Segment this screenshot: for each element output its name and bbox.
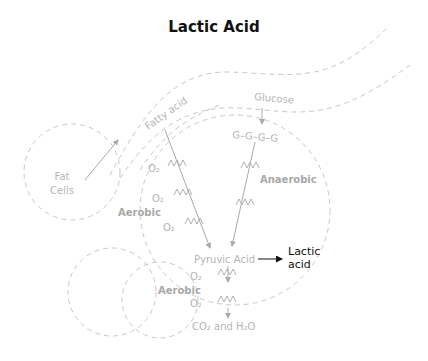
anaerobic-label: Anaerobic [260, 174, 317, 185]
co2-h2o-label: CO₂ and H₂O [192, 321, 256, 332]
o2-label-4: O₂ [190, 271, 202, 282]
glucose-chain-label: G–G–G–G [232, 129, 279, 144]
o2-label-1: O₂ [148, 163, 160, 174]
pyruvic-acid-label: Pyruvic Acid [194, 254, 255, 265]
muscle-cell-circle [140, 115, 330, 305]
glucose-label: Glucose [254, 91, 295, 105]
glycolysis-arrow [232, 142, 255, 246]
o2-label-2: O₂ [152, 193, 164, 204]
fat-release-arrow [85, 140, 118, 180]
vessel-upper-outer [110, 25, 390, 175]
aerobic-label-upper: Aerobic [118, 207, 161, 218]
wave-icon-7 [218, 296, 236, 302]
wave-icon-6 [218, 269, 236, 275]
wave-icon-1 [168, 160, 186, 166]
o2-label-5: O₂ [190, 298, 202, 309]
vessel-lower [140, 105, 220, 170]
wave-icon-5 [236, 199, 254, 205]
lactic-acid-label-1: Lactic [288, 245, 320, 258]
lower-cell-circle-1 [68, 248, 156, 336]
fat-cell-circle [24, 124, 120, 220]
lactic-acid-diagram: Lactic Acid Fat Cells Fatty acid Glucose… [0, 0, 428, 361]
lactic-acid-label-2: acid [288, 258, 311, 271]
o2-label-3: O₂ [163, 222, 175, 233]
lower-cell-circle-2 [122, 262, 198, 338]
diagram-title: Lactic Acid [168, 18, 259, 36]
fat-cells-label-1: Fat [55, 171, 70, 182]
aerobic-label-lower: Aerobic [158, 285, 201, 296]
fat-cells-label-2: Cells [50, 185, 74, 196]
fatty-acid-label: Fatty acid [143, 95, 189, 132]
